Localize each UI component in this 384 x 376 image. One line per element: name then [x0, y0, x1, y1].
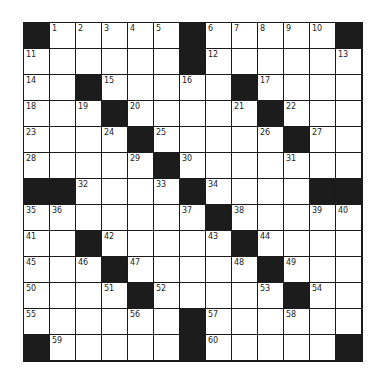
crossword-cell[interactable]: 10 — [310, 23, 336, 49]
crossword-cell[interactable] — [76, 309, 102, 335]
crossword-cell[interactable] — [336, 101, 362, 127]
crossword-cell[interactable]: 41 — [24, 231, 50, 257]
crossword-cell[interactable] — [258, 179, 284, 205]
crossword-cell[interactable]: 19 — [76, 101, 102, 127]
crossword-cell[interactable] — [154, 75, 180, 101]
crossword-cell[interactable]: 28 — [24, 153, 50, 179]
crossword-cell[interactable] — [258, 49, 284, 75]
crossword-cell[interactable]: 42 — [102, 231, 128, 257]
crossword-cell[interactable]: 55 — [24, 309, 50, 335]
crossword-cell[interactable] — [336, 127, 362, 153]
crossword-cell[interactable]: 14 — [24, 75, 50, 101]
crossword-cell[interactable] — [336, 153, 362, 179]
crossword-cell[interactable]: 45 — [24, 257, 50, 283]
crossword-cell[interactable]: 6 — [206, 23, 232, 49]
crossword-cell[interactable] — [232, 309, 258, 335]
crossword-cell[interactable]: 37 — [180, 205, 206, 231]
crossword-cell[interactable] — [102, 335, 128, 361]
crossword-cell[interactable]: 51 — [102, 283, 128, 309]
crossword-cell[interactable]: 54 — [310, 283, 336, 309]
crossword-cell[interactable] — [180, 283, 206, 309]
crossword-cell[interactable]: 52 — [154, 283, 180, 309]
crossword-cell[interactable] — [102, 179, 128, 205]
crossword-cell[interactable] — [76, 49, 102, 75]
crossword-cell[interactable] — [76, 205, 102, 231]
crossword-cell[interactable] — [206, 75, 232, 101]
crossword-cell[interactable] — [232, 49, 258, 75]
crossword-cell[interactable] — [206, 101, 232, 127]
crossword-cell[interactable]: 15 — [102, 75, 128, 101]
crossword-cell[interactable] — [232, 127, 258, 153]
crossword-cell[interactable]: 33 — [154, 179, 180, 205]
crossword-cell[interactable] — [180, 257, 206, 283]
crossword-cell[interactable]: 48 — [232, 257, 258, 283]
crossword-cell[interactable]: 21 — [232, 101, 258, 127]
crossword-cell[interactable]: 38 — [232, 205, 258, 231]
crossword-cell[interactable] — [154, 335, 180, 361]
crossword-cell[interactable] — [50, 283, 76, 309]
crossword-cell[interactable] — [128, 205, 154, 231]
crossword-cell[interactable]: 43 — [206, 231, 232, 257]
crossword-cell[interactable] — [258, 205, 284, 231]
crossword-cell[interactable] — [154, 257, 180, 283]
crossword-cell[interactable] — [284, 231, 310, 257]
crossword-cell[interactable] — [258, 309, 284, 335]
crossword-cell[interactable] — [102, 309, 128, 335]
crossword-cell[interactable] — [336, 231, 362, 257]
crossword-cell[interactable]: 7 — [232, 23, 258, 49]
crossword-cell[interactable] — [206, 127, 232, 153]
crossword-cell[interactable] — [50, 75, 76, 101]
crossword-cell[interactable] — [50, 257, 76, 283]
crossword-cell[interactable]: 12 — [206, 49, 232, 75]
crossword-cell[interactable] — [76, 335, 102, 361]
crossword-cell[interactable]: 32 — [76, 179, 102, 205]
crossword-cell[interactable] — [180, 231, 206, 257]
crossword-cell[interactable]: 9 — [284, 23, 310, 49]
crossword-cell[interactable] — [232, 179, 258, 205]
crossword-cell[interactable]: 13 — [336, 49, 362, 75]
crossword-cell[interactable]: 39 — [310, 205, 336, 231]
crossword-cell[interactable]: 29 — [128, 153, 154, 179]
crossword-cell[interactable]: 53 — [258, 283, 284, 309]
crossword-cell[interactable] — [310, 101, 336, 127]
crossword-cell[interactable] — [206, 283, 232, 309]
crossword-cell[interactable] — [336, 75, 362, 101]
crossword-cell[interactable] — [50, 231, 76, 257]
crossword-cell[interactable]: 49 — [284, 257, 310, 283]
crossword-cell[interactable] — [310, 257, 336, 283]
crossword-cell[interactable]: 20 — [128, 101, 154, 127]
crossword-cell[interactable] — [102, 49, 128, 75]
crossword-cell[interactable] — [128, 75, 154, 101]
crossword-cell[interactable]: 59 — [50, 335, 76, 361]
crossword-cell[interactable] — [232, 335, 258, 361]
crossword-cell[interactable] — [284, 179, 310, 205]
crossword-cell[interactable] — [310, 335, 336, 361]
crossword-cell[interactable] — [154, 309, 180, 335]
crossword-cell[interactable]: 56 — [128, 309, 154, 335]
crossword-cell[interactable]: 46 — [76, 257, 102, 283]
crossword-cell[interactable] — [128, 49, 154, 75]
crossword-cell[interactable] — [336, 309, 362, 335]
crossword-cell[interactable]: 60 — [206, 335, 232, 361]
crossword-cell[interactable] — [258, 335, 284, 361]
crossword-cell[interactable]: 57 — [206, 309, 232, 335]
crossword-cell[interactable] — [284, 75, 310, 101]
crossword-cell[interactable] — [154, 231, 180, 257]
crossword-cell[interactable]: 2 — [76, 23, 102, 49]
crossword-cell[interactable] — [180, 101, 206, 127]
crossword-cell[interactable]: 24 — [102, 127, 128, 153]
crossword-cell[interactable] — [154, 101, 180, 127]
crossword-cell[interactable] — [50, 101, 76, 127]
crossword-cell[interactable] — [76, 127, 102, 153]
crossword-cell[interactable]: 22 — [284, 101, 310, 127]
crossword-cell[interactable]: 30 — [180, 153, 206, 179]
crossword-cell[interactable] — [258, 153, 284, 179]
crossword-cell[interactable]: 25 — [154, 127, 180, 153]
crossword-cell[interactable]: 8 — [258, 23, 284, 49]
crossword-cell[interactable] — [154, 205, 180, 231]
crossword-cell[interactable]: 47 — [128, 257, 154, 283]
crossword-cell[interactable]: 11 — [24, 49, 50, 75]
crossword-cell[interactable]: 18 — [24, 101, 50, 127]
crossword-cell[interactable]: 36 — [50, 205, 76, 231]
crossword-cell[interactable] — [180, 127, 206, 153]
